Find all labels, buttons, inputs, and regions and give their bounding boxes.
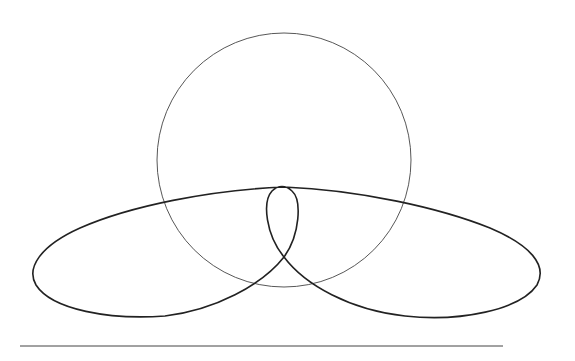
circle-shape [157,33,411,287]
diagram-canvas [0,0,575,361]
trefoil-curve [33,187,540,318]
